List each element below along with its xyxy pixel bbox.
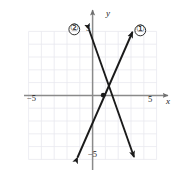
plot-line-2 — [89, 30, 134, 158]
intersection-point — [101, 93, 106, 98]
y-axis-label: y — [106, 9, 110, 18]
line-2-label: ② — [70, 24, 79, 34]
x-axis-label: x — [166, 97, 170, 106]
y-axis-tick-label-neg5: −5 — [88, 150, 97, 159]
coordinate-plane-figure: −5 5 5 −5 x y ① ② — [0, 0, 185, 177]
x-axis-tick-label-neg5: −5 — [27, 94, 36, 103]
line-1-label: ① — [136, 25, 145, 35]
x-axis-tick-label-pos5: 5 — [148, 95, 152, 104]
y-axis-tick-label-pos5: 5 — [86, 24, 90, 33]
